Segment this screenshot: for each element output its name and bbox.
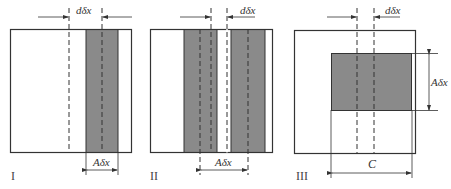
shaded-block	[332, 54, 412, 111]
dim-label-d-delta-x: dδx	[76, 4, 92, 16]
panel-3: dδx Aδx C III	[295, 4, 448, 183]
panel-2: dδx Aδx II	[150, 4, 273, 183]
dim-label-a-delta-x: Aδx	[430, 76, 448, 88]
dim-label-a-delta-x: Aδx	[214, 156, 232, 168]
dim-label-a-delta-x: Aδx	[92, 156, 110, 168]
diagram-canvas: dδx Aδx I dδx Aδx II dδx	[0, 0, 451, 189]
dim-label-c: C	[368, 157, 377, 171]
panel-label: I	[11, 169, 15, 183]
panel-1: dδx Aδx I	[11, 4, 133, 183]
dim-label-d-delta-x: dδx	[240, 4, 256, 16]
panel-label: II	[150, 169, 158, 183]
dim-label-d-delta-x: dδx	[385, 4, 401, 16]
panel-label: III	[296, 169, 308, 183]
